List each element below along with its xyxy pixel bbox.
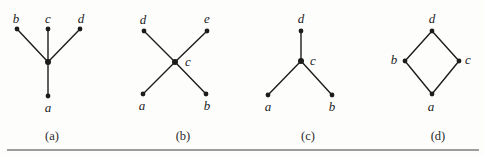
vertex-label: d xyxy=(140,12,147,27)
vertex-label: c xyxy=(185,54,191,69)
vertex-label: b xyxy=(204,98,211,113)
figure-canvas: bcda(a)decab(b)dcab(c)dbca(d) xyxy=(0,0,484,157)
edge-line xyxy=(17,29,48,62)
vertex-dot xyxy=(141,92,146,97)
vertex-label: b xyxy=(391,52,398,67)
edge-line xyxy=(432,31,459,61)
graph-caption: (b) xyxy=(176,129,191,143)
vertex-dot xyxy=(15,27,20,32)
vertex-dot xyxy=(403,59,408,64)
vertex-dot xyxy=(78,27,83,32)
edge-line xyxy=(143,62,175,94)
vertex-dot xyxy=(266,93,271,98)
vertex-label: a xyxy=(265,99,272,114)
vertex-dot xyxy=(45,59,51,65)
vertex-label: a xyxy=(139,98,146,113)
vertex-dot xyxy=(430,92,435,97)
vertex-label: c xyxy=(465,52,471,67)
vertex-dot xyxy=(298,58,304,64)
edge-line xyxy=(268,61,301,95)
vertex-label: b xyxy=(13,11,20,26)
vertex-label: a xyxy=(428,99,435,114)
graph-caption: (a) xyxy=(45,129,59,143)
edge-line xyxy=(144,31,175,62)
vertex-dot xyxy=(205,29,210,34)
edge-line xyxy=(48,29,80,62)
vertex-dot xyxy=(46,27,51,32)
graph-caption: (d) xyxy=(431,129,446,143)
vertex-dot xyxy=(430,29,435,34)
edge-line xyxy=(432,61,459,94)
vertex-dot xyxy=(204,92,209,97)
vertex-label: c xyxy=(45,11,51,26)
graph-caption: (c) xyxy=(301,129,315,143)
vertex-label: d xyxy=(429,11,436,26)
vertex-label: b xyxy=(329,99,336,114)
edge-line xyxy=(301,61,332,95)
vertex-dot xyxy=(299,29,304,34)
vertex-label: a xyxy=(45,100,52,115)
edge-line xyxy=(405,61,432,94)
vertex-label: e xyxy=(204,11,210,26)
vertex-dot xyxy=(330,93,335,98)
vertex-dot xyxy=(46,94,51,99)
graph-figure: bcda(a)decab(b)dcab(c)dbca(d) xyxy=(0,0,484,157)
vertex-label: c xyxy=(310,53,316,68)
vertex-label: d xyxy=(78,11,85,26)
edge-line xyxy=(405,31,432,61)
vertex-dot xyxy=(172,59,178,65)
vertex-label: d xyxy=(298,11,305,26)
vertex-dot xyxy=(142,29,147,34)
edge-line xyxy=(175,31,207,62)
vertex-dot xyxy=(457,59,462,64)
